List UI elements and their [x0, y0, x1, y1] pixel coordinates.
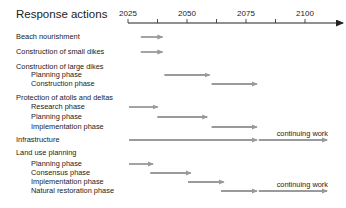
x-axis: [128, 19, 343, 23]
bars: [129, 37, 327, 191]
gantt-chart: [0, 0, 346, 208]
